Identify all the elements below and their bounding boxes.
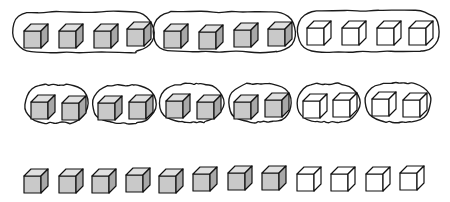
cube-front-face — [24, 176, 41, 193]
cube-front-face — [372, 99, 389, 116]
plain-cube — [342, 21, 366, 45]
plain-cube — [307, 21, 331, 45]
shaded-cube — [24, 24, 48, 48]
row3-cube4 — [126, 168, 150, 192]
row2-group6 — [365, 83, 431, 123]
plain-cube — [297, 167, 321, 191]
cube-front-face — [400, 173, 417, 190]
cube-front-face — [193, 174, 210, 191]
shaded-cube — [166, 94, 190, 118]
cube-front-face — [98, 103, 115, 120]
row3-cube2 — [59, 169, 83, 193]
cube-front-face — [377, 28, 394, 45]
shaded-cube — [193, 167, 217, 191]
diagram-canvas — [0, 0, 450, 202]
row3-cube10 — [331, 167, 355, 191]
cube-front-face — [166, 101, 183, 118]
cube-front-face — [265, 100, 282, 117]
cube-front-face — [262, 173, 279, 190]
row1-group2 — [153, 11, 295, 53]
shaded-cube — [31, 95, 55, 119]
cube-front-face — [92, 176, 109, 193]
shaded-cube — [129, 95, 153, 119]
cube-front-face — [303, 101, 320, 118]
shaded-cube — [159, 169, 183, 193]
cube-front-face — [126, 175, 143, 192]
cube-front-face — [199, 32, 216, 49]
shaded-cube — [92, 169, 116, 193]
cube-front-face — [307, 28, 324, 45]
cube-front-face — [127, 29, 144, 46]
cube-front-face — [197, 102, 214, 119]
shaded-cube — [62, 96, 86, 120]
cube-front-face — [24, 31, 41, 48]
shaded-cube — [24, 169, 48, 193]
cube-front-face — [62, 103, 79, 120]
shaded-cube — [98, 96, 122, 120]
plain-cube — [331, 167, 355, 191]
row3-cube3 — [92, 169, 116, 193]
cube-front-face — [297, 174, 314, 191]
shaded-cube — [265, 93, 289, 117]
row2-group1 — [25, 84, 88, 124]
row3-cube7 — [228, 166, 252, 190]
plain-cube — [333, 93, 357, 117]
shaded-cube — [228, 166, 252, 190]
plain-cube — [366, 167, 390, 191]
row2-group2 — [93, 85, 157, 124]
row-groups-of-four — [13, 10, 439, 53]
cube-front-face — [159, 176, 176, 193]
shaded-cube — [234, 23, 258, 47]
plain-cube — [377, 21, 401, 45]
cube-front-face — [403, 100, 420, 117]
cube-front-face — [94, 31, 111, 48]
shaded-cube — [262, 166, 286, 190]
row2-group3 — [159, 83, 224, 122]
row-single-cubes — [24, 166, 424, 193]
row3-cube12 — [400, 166, 424, 190]
row3-cube1 — [24, 169, 48, 193]
cube-front-face — [333, 100, 350, 117]
shaded-cube — [197, 95, 221, 119]
shaded-cube — [164, 24, 188, 48]
shaded-cube — [59, 24, 83, 48]
cube-front-face — [342, 28, 359, 45]
cube-front-face — [234, 102, 251, 119]
cube-front-face — [268, 29, 285, 46]
cube-front-face — [234, 30, 251, 47]
cube-front-face — [409, 28, 426, 45]
plain-cube — [409, 21, 433, 45]
row3-cube6 — [193, 167, 217, 191]
row3-cube8 — [262, 166, 286, 190]
cube-front-face — [331, 174, 348, 191]
row1-group1 — [13, 11, 155, 53]
shaded-cube — [94, 24, 118, 48]
cube-front-face — [59, 176, 76, 193]
plain-cube — [403, 93, 427, 117]
plain-cube — [303, 94, 327, 118]
plain-cube — [400, 166, 424, 190]
row3-cube5 — [159, 169, 183, 193]
cube-front-face — [129, 102, 146, 119]
cube-front-face — [59, 31, 76, 48]
cube-front-face — [228, 173, 245, 190]
cube-grouping-diagram — [0, 0, 450, 202]
row3-cube9 — [297, 167, 321, 191]
shaded-cube — [234, 95, 258, 119]
shaded-cube — [199, 25, 223, 49]
plain-cube — [372, 92, 396, 116]
shaded-cube — [59, 169, 83, 193]
row1-group3 — [297, 10, 439, 52]
shaded-cube — [268, 22, 292, 46]
row2-group5 — [297, 83, 360, 123]
cube-front-face — [366, 174, 383, 191]
cube-front-face — [164, 31, 181, 48]
shaded-cube — [126, 168, 150, 192]
row2-group4 — [229, 83, 291, 123]
row3-cube11 — [366, 167, 390, 191]
shaded-cube — [127, 22, 151, 46]
cube-front-face — [31, 102, 48, 119]
row-groups-of-two — [25, 83, 431, 124]
